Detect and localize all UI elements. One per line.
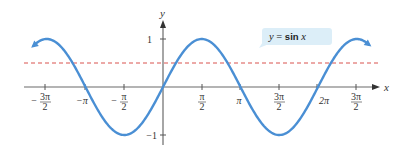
y-axis-label: y [159, 7, 165, 19]
x-tick-label-2pi: 2π [319, 95, 330, 106]
y-tick-label-neg1: −1 [146, 130, 157, 141]
x-tick-label-pi-2: π 2 [198, 91, 206, 112]
svg-text:−: − [111, 95, 117, 106]
x-axis-arrow-icon [372, 84, 380, 90]
x-tick-label-neg-pi-2: − π 2 [111, 91, 128, 112]
x-tick-label-neg-3pi-2: − 3π 2 [31, 91, 51, 112]
svg-text:−: − [31, 95, 37, 106]
x-tick-label-right-3pi-2: 3π 2 [351, 91, 362, 112]
x-axis-label: x [383, 81, 389, 93]
svg-text:2: 2 [354, 101, 359, 112]
y-axis-arrow-icon [160, 20, 166, 28]
curve-callout: y = sin x [259, 28, 332, 48]
x-tick-label-neg-pi: −π [76, 95, 89, 106]
svg-text:2: 2 [277, 101, 282, 112]
sine-chart: x y 1 −1 − 3π 2 −π − π 2 π 2 π [0, 0, 397, 148]
x-tick-label-3pi-2: 3π 2 [274, 91, 285, 112]
y-tick-label-1: 1 [147, 34, 152, 45]
svg-text:2: 2 [122, 101, 127, 112]
svg-text:2: 2 [43, 101, 48, 112]
x-tick-label-pi: π [236, 95, 242, 106]
svg-text:2: 2 [200, 101, 205, 112]
callout-label: y = sin x [268, 31, 306, 42]
